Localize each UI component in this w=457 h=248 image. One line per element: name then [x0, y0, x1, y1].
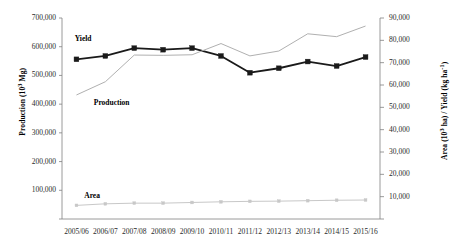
series-marker-yield — [103, 54, 108, 59]
series-marker-area — [249, 200, 252, 203]
series-marker-yield — [74, 57, 79, 62]
series-marker-yield — [276, 66, 281, 71]
series-marker-yield — [161, 47, 166, 52]
series-marker-yield — [190, 46, 195, 51]
series-marker-area — [133, 202, 136, 205]
chart-container: Production (103 Mg) Area (103 ha) / Yiel… — [0, 0, 457, 248]
series-marker-yield — [334, 64, 339, 69]
series-marker-area — [75, 204, 78, 207]
plot-svg — [0, 0, 457, 248]
series-marker-area — [162, 202, 165, 205]
series-marker-yield — [305, 59, 310, 64]
series-marker-yield — [219, 54, 224, 59]
series-marker-yield — [363, 55, 368, 60]
series-marker-area — [220, 200, 223, 203]
series-marker-area — [104, 202, 107, 205]
series-marker-area — [364, 199, 367, 202]
series-marker-area — [306, 199, 309, 202]
series-marker-area — [277, 200, 280, 203]
series-marker-yield — [248, 70, 253, 75]
series-marker-area — [335, 199, 338, 202]
series-marker-area — [191, 201, 194, 204]
series-line-production — [76, 26, 365, 95]
series-marker-yield — [132, 46, 137, 51]
